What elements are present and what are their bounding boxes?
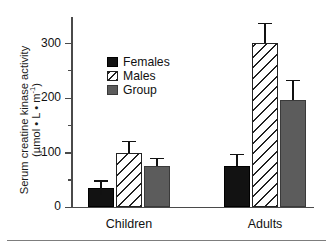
errorbar-cap-children-females <box>94 180 108 181</box>
x-axis-line <box>71 207 314 209</box>
errorbar-cap-adults-group <box>286 80 300 81</box>
legend-item-group: Group <box>107 83 170 97</box>
chart-legend: Females Males Group <box>107 55 170 98</box>
figure-bottom-rule <box>7 240 326 241</box>
y-tick-label-200: 200 <box>31 91 61 103</box>
y-axis-title-line1: Serum creatine kinase activity <box>18 46 31 195</box>
y-tick-100 <box>65 152 71 153</box>
bar-children-group <box>144 166 170 206</box>
y-tick-label-300: 300 <box>31 37 61 49</box>
y-tick-label-100: 100 <box>31 146 61 158</box>
legend-label-group: Group <box>123 84 157 97</box>
bar-children-males <box>116 153 142 207</box>
y-axis-units-suffix: ) <box>30 83 42 87</box>
errorbar-cap-children-males <box>122 141 136 142</box>
errorbar-cap-adults-females <box>230 154 244 155</box>
errorbar-stem-children-females <box>100 180 101 194</box>
y-tick-0 <box>65 207 71 208</box>
x-axis-label-children: Children <box>89 217 169 231</box>
legend-label-males: Males <box>123 70 156 83</box>
bar-adults-females <box>224 166 250 207</box>
legend-swatch-females-icon <box>107 57 118 67</box>
y-tick-label-0: 0 <box>31 200 61 212</box>
errorbar-stem-children-males <box>128 141 129 154</box>
errorbar-cap-children-group <box>150 158 164 159</box>
errorbar-cap-adults-males <box>258 23 272 24</box>
x-axis-label-adults: Adults <box>225 217 305 231</box>
y-tick-minor-250 <box>68 70 72 71</box>
errorbar-stem-adults-group <box>292 80 293 100</box>
bar-adults-group <box>280 100 306 207</box>
legend-swatch-males-icon <box>107 71 118 81</box>
y-tick-minor-150 <box>68 125 72 126</box>
chart-figure: Serum creatine kinase activity (µmol • L… <box>0 0 333 249</box>
legend-label-females: Females <box>123 56 170 69</box>
y-tick-minor-50 <box>68 179 72 180</box>
errorbar-stem-adults-females <box>236 154 237 166</box>
y-axis-line <box>71 17 73 208</box>
bar-adults-males <box>252 43 278 207</box>
y-axis-title: Serum creatine kinase activity (µmol • L… <box>13 20 47 220</box>
legend-item-females: Females <box>107 55 170 69</box>
legend-item-males: Males <box>107 69 170 83</box>
errorbar-stem-adults-males <box>264 23 265 43</box>
legend-swatch-group-icon <box>107 85 118 95</box>
y-tick-200 <box>65 98 71 99</box>
y-tick-300 <box>65 43 71 44</box>
